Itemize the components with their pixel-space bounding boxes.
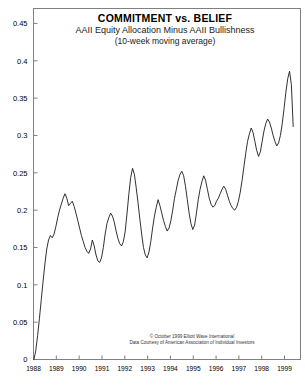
y-axis-tick-label: 0.3 [17,131,27,140]
x-axis-tick-label: 1989 [49,365,64,372]
x-axis-tick-label: 1990 [72,365,87,372]
y-axis-tick-label: 0.1 [17,281,27,290]
commitment-vs-belief-line-chart: 00.050.10.150.20.250.30.350.40.451988198… [0,0,305,386]
x-axis-tick-label: 1998 [254,365,269,372]
x-axis-tick-label: 1996 [209,365,224,372]
y-axis-tick-label: 0.45 [13,19,28,28]
y-axis-tick-label: 0.15 [13,243,28,252]
y-axis-tick-label: 0.35 [13,94,28,103]
x-axis-tick-label: 1993 [140,365,155,372]
y-axis-tick-label: 0.05 [13,318,28,327]
x-axis-tick-label: 1997 [232,365,247,372]
x-axis-tick-label: 1994 [163,365,178,372]
data-series-line [34,71,293,359]
y-axis-tick-label: 0 [23,355,27,364]
y-axis-tick-label: 0.4 [17,57,27,66]
x-axis-tick-label: 1992 [117,365,132,372]
y-axis-tick-label: 0.2 [17,206,27,215]
x-axis-tick-label: 1995 [186,365,201,372]
y-axis-tick-label: 0.25 [13,169,28,178]
chart-container: 00.050.10.150.20.250.30.350.40.451988198… [0,0,305,386]
x-axis-tick-label: 1988 [26,365,41,372]
x-axis-tick-label: 1999 [277,365,292,372]
x-axis-tick-label: 1991 [95,365,110,372]
